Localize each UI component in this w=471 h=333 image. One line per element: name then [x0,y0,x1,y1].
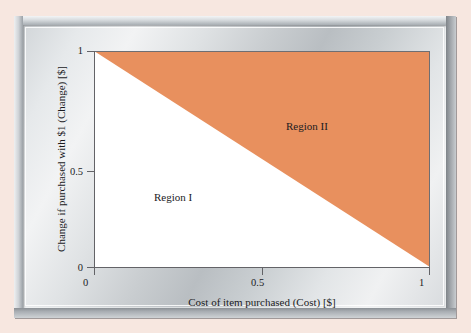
y-tick-label-1: 1 [67,46,83,57]
x-tick-mark-0 [94,268,95,275]
y-tick-mark-0.5 [87,171,94,172]
figure-frame: 0 0.5 1 0 0.5 1 Cost of item purchased (… [14,16,456,318]
y-tick-mark-0 [87,267,94,268]
x-tick-label-1: 1 [419,278,441,289]
x-tick-mark-1 [429,268,430,275]
x-tick-mark-0.5 [262,268,263,275]
y-axis-title: Change if purchased with $1 (Change) [$] [55,51,67,267]
frame-bevel-bottom-edge [14,308,456,318]
y-tick-mark-1 [87,51,94,52]
x-tick-label-0.5: 0.5 [251,278,273,289]
y-axis-line [94,51,95,268]
region-two-fill [94,51,430,267]
frame-bevel-top-edge [14,16,456,25]
frame-bevel-left-edge [14,16,23,318]
plot-area [94,51,430,267]
region-one-label: Region I [154,191,192,203]
region-two-label: Region II [286,120,328,132]
x-tick-label-0: 0 [83,278,105,289]
x-axis-title: Cost of item purchased (Cost) [$] [94,296,430,308]
plot-border-top [94,51,430,52]
plot-border-right [429,51,430,268]
y-tick-label-0: 0 [67,263,83,274]
figure-panel: 0 0.5 1 0 0.5 1 Cost of item purchased (… [23,25,446,308]
frame-bevel-right-edge [446,16,456,318]
plot-canvas: 0 0.5 1 0 0.5 1 Cost of item purchased (… [23,25,446,308]
